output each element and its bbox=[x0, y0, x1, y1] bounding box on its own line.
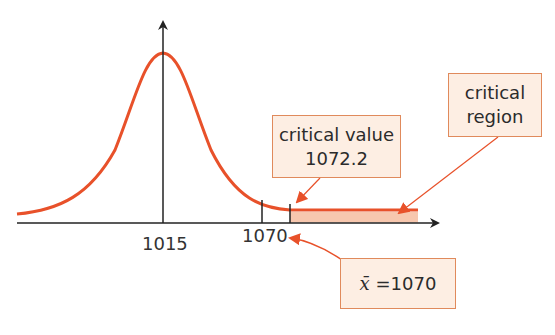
callout-critical-value-line1: critical value bbox=[273, 123, 400, 147]
callout-critical-region-line2: region bbox=[449, 105, 541, 129]
arrow-sample-mean bbox=[290, 238, 342, 260]
callout-critical-value: critical value 1072.2 bbox=[272, 115, 401, 178]
callout-sample-mean: x̄ =1070 bbox=[340, 258, 456, 309]
callout-critical-region-line1: critical bbox=[449, 81, 541, 105]
arrow-critical-region bbox=[399, 137, 498, 213]
sample-mean-value: =1070 bbox=[370, 273, 437, 294]
critical-region-shading bbox=[290, 212, 418, 223]
x-bar-symbol: x̄ bbox=[360, 273, 370, 294]
callout-critical-value-line2: 1072.2 bbox=[273, 147, 400, 171]
callout-critical-region: critical region bbox=[448, 73, 542, 137]
x-tick-label-1015: 1015 bbox=[142, 233, 188, 254]
x-tick-label-1070: 1070 bbox=[242, 225, 288, 246]
arrow-critical-value bbox=[297, 178, 320, 202]
